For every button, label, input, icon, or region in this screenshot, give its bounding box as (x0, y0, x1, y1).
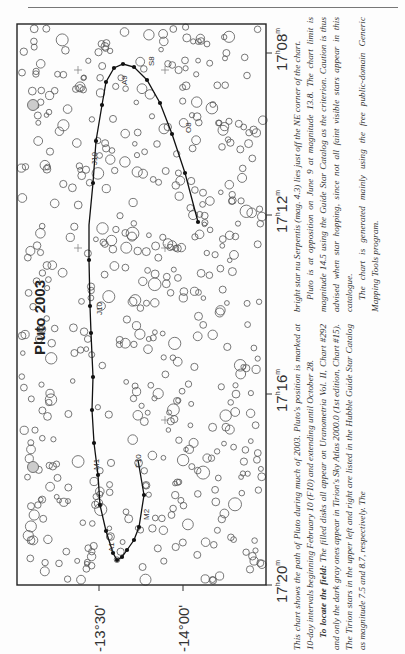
star-icon (19, 69, 26, 76)
star-icon (109, 245, 117, 253)
star-icon (242, 447, 249, 454)
star-icon (144, 345, 153, 354)
star-icon (103, 291, 115, 303)
star-icon (156, 179, 162, 185)
caption-column-2: bright star nu Serpentis (mag. 4.3) lies… (291, 17, 382, 312)
star-icon (139, 169, 148, 178)
star-icon (121, 242, 132, 253)
star-icon (27, 555, 34, 562)
star-icon (28, 503, 35, 510)
star-icon (179, 388, 185, 394)
star-icon (94, 237, 99, 242)
star-icon (245, 322, 251, 328)
star-icon (28, 87, 36, 95)
star-icon (36, 60, 45, 69)
star-icon (132, 167, 142, 177)
pluto-position-marker (96, 473, 100, 477)
star-icon (200, 202, 206, 208)
star-icon (131, 341, 137, 347)
star-icon (51, 87, 58, 94)
star-icon (102, 140, 109, 147)
star-icon (175, 275, 182, 282)
date-label: J10 (90, 152, 99, 165)
star-icon (123, 86, 129, 92)
star-icon (84, 250, 91, 257)
dec-tick-label: -14°00' (175, 605, 192, 652)
star-icon (163, 273, 170, 280)
ra-tick-label: 17h20m (273, 560, 290, 603)
caption-locate: To locate the field: The filled disks al… (317, 324, 369, 650)
star-icon (176, 437, 182, 443)
pluto-position-marker (196, 220, 200, 224)
star-icon (235, 120, 242, 127)
star-icon (222, 82, 229, 89)
star-icon (70, 324, 78, 332)
star-icon (86, 58, 91, 63)
star-icon (170, 355, 176, 361)
date-label: J10 (95, 302, 104, 315)
star-icon (172, 182, 180, 190)
date-label: S8 (147, 56, 156, 66)
star-icon (191, 39, 196, 44)
star-icon (65, 484, 72, 491)
star-icon (258, 466, 263, 471)
star-icon (171, 267, 176, 272)
star-icon (18, 194, 27, 203)
star-icon (192, 136, 201, 145)
dec-tick-label: -13°30' (91, 605, 108, 652)
star-icon (130, 295, 141, 306)
star-icon (247, 208, 257, 218)
star-icon (142, 149, 148, 155)
star-icon (54, 494, 59, 499)
star-icon (175, 170, 181, 176)
star-icon (159, 47, 164, 52)
star-icon (145, 410, 150, 415)
star-icon (255, 487, 261, 493)
star-icon (39, 223, 45, 229)
star-icon (97, 223, 108, 234)
star-icon (180, 98, 186, 104)
star-field (17, 24, 267, 585)
chart-title: Pluto 2003 (31, 280, 48, 355)
star-icon (20, 426, 28, 434)
star-icon (185, 381, 191, 387)
star-icon (88, 562, 95, 569)
star-icon (133, 142, 138, 147)
star-icon (70, 379, 75, 384)
star-icon (249, 552, 257, 560)
star-icon (107, 482, 113, 488)
star-icon (219, 144, 226, 151)
star-icon (117, 213, 123, 219)
star-icon (178, 497, 184, 503)
star-icon (183, 519, 194, 530)
star-icon (64, 576, 70, 582)
star-icon (66, 233, 74, 241)
star-icon (239, 490, 245, 496)
star-icon (58, 268, 67, 277)
star-icon (216, 572, 224, 580)
star-icon (120, 157, 130, 167)
star-icon (17, 164, 25, 172)
star-icon (172, 491, 179, 498)
star-icon (220, 243, 225, 248)
star-icon (38, 87, 45, 94)
star-icon (31, 38, 38, 45)
star-icon (223, 31, 234, 42)
star-icon (113, 83, 119, 89)
star-icon (155, 254, 162, 261)
star-icon (137, 305, 144, 312)
star-icon (48, 339, 56, 347)
star-icon (102, 241, 109, 248)
pluto-position-marker (170, 132, 174, 136)
star-icon (62, 47, 70, 55)
star-icon (28, 396, 34, 402)
star-icon (116, 341, 122, 347)
star-icon (214, 449, 219, 454)
star-icon (258, 560, 266, 568)
star-icon (238, 198, 244, 204)
star-icon (219, 286, 226, 293)
star-icon (134, 153, 139, 158)
star-icon (207, 227, 213, 233)
star-icon (256, 299, 261, 304)
star-icon (192, 187, 199, 194)
